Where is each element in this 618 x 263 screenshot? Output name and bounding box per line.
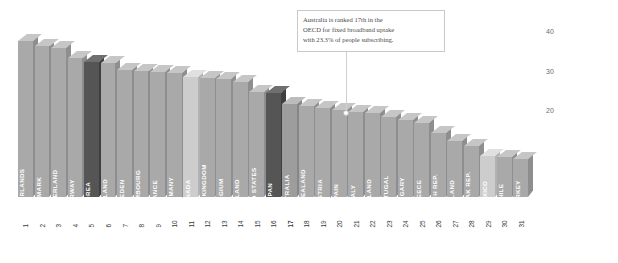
bar-face [134, 71, 149, 197]
bar-luxembourg: LUXEMBOURG [134, 71, 149, 197]
plot-area: NETHERLANDSDENMARKSWITZERLANDNORWAYKOREA… [18, 18, 564, 233]
bar-face [365, 113, 380, 197]
bar-portugal: PORTUGAL [381, 117, 396, 197]
rank-label: 7 [121, 220, 129, 227]
rank-label: 10 [170, 220, 178, 227]
bar-face [381, 117, 396, 197]
rank-label: 5 [87, 220, 95, 227]
bar-top [431, 126, 455, 133]
rank-label: 20 [335, 220, 343, 227]
bar-turkey: TURKEY [513, 159, 528, 197]
bar-finland: FINLAND [233, 82, 248, 197]
bar-slovak-rep: SLOVAK REP. [464, 146, 479, 197]
bar-korea: KOREA [84, 62, 99, 197]
bar-face [101, 63, 116, 197]
rank-label: 31 [517, 220, 525, 227]
annotation-line-1: Australia is ranked 17th in the [303, 15, 439, 25]
annotation-leader-line [346, 46, 347, 112]
bar-face [183, 77, 198, 197]
bar-italy: ITALY [348, 112, 363, 197]
bar-canada: CANADA [183, 77, 198, 197]
bar-norway: NORWAY [68, 58, 83, 197]
bar-face [84, 62, 99, 197]
bar-france: FRANCE [150, 72, 165, 197]
bar-sweden: SWEDEN [117, 70, 132, 197]
bar-face [282, 104, 297, 197]
bar-germany: GERMANY [167, 73, 182, 198]
bar-face [464, 146, 479, 197]
rank-label: 29 [484, 220, 492, 227]
rank-label: 23 [385, 220, 393, 227]
bar-spain: SPAIN [332, 110, 347, 197]
bar-new-zealand: NEW ZEALAND [299, 106, 314, 197]
bar-face [117, 70, 132, 197]
annotation-leader-dot [343, 110, 349, 116]
bar-face [414, 123, 429, 197]
rank-label: 12 [203, 220, 211, 227]
rank-label: 21 [352, 220, 360, 227]
rank-label: 9 [154, 220, 162, 227]
y-tick-label: 30 [546, 67, 554, 74]
bar-side [528, 152, 533, 197]
bar-face [35, 46, 50, 197]
bar-poland: POLAND [447, 141, 462, 197]
bar-netherlands: NETHERLANDS [18, 41, 33, 197]
rank-label: 19 [319, 220, 327, 227]
bar-face [150, 72, 165, 197]
rank-label: 28 [467, 220, 475, 227]
rank-label: 18 [302, 220, 310, 227]
bar-face [513, 159, 528, 197]
bar-series: NETHERLANDSDENMARKSWITZERLANDNORWAYKOREA… [18, 18, 564, 197]
rank-label: 8 [137, 220, 145, 227]
y-tick-label: 40 [546, 27, 554, 34]
bar-iceland: ICELAND [101, 63, 116, 197]
bar-greece: GREECE [414, 123, 429, 197]
rank-label: 17 [286, 220, 294, 227]
bar-face [431, 133, 446, 197]
bar-denmark: DENMARK [35, 46, 50, 197]
rank-label: 27 [451, 220, 459, 227]
bar-japan: JAPAN [266, 93, 281, 197]
y-axis: 203040 [536, 18, 566, 197]
bar-belgium: BELGIUM [216, 79, 231, 197]
bar-united-kingdom: UNITED KINGDOM [200, 78, 215, 197]
bar-face [216, 79, 231, 197]
bar-face [497, 157, 512, 197]
bar-face [299, 106, 314, 197]
bar-top [464, 139, 488, 146]
rank-label: 2 [38, 220, 46, 227]
bar-face [167, 73, 182, 198]
rank-label: 4 [71, 220, 79, 227]
bar-face [315, 108, 330, 198]
rank-axis: 1234567891011121314151617181920212223242… [18, 199, 564, 227]
bar-united-states: UNITED STATES [249, 92, 264, 197]
bar-top [18, 34, 42, 41]
bar-chile: CHILE [497, 157, 512, 197]
annotation-line-3: with 23.3% of people subscribing. [303, 35, 439, 45]
bar-face [447, 141, 462, 197]
rank-label: 13 [220, 220, 228, 227]
broadband-uptake-chart: NETHERLANDSDENMARKSWITZERLANDNORWAYKOREA… [0, 0, 618, 263]
bar-face [18, 41, 33, 197]
bar-australia: AUSTRALIA [282, 104, 297, 197]
bar-face [68, 58, 83, 197]
annotation-line-2: OECD for fixed broadband uptake [303, 25, 439, 35]
bar-ireland: IRELAND [365, 113, 380, 197]
rank-label: 6 [104, 220, 112, 227]
bar-face [348, 112, 363, 197]
rank-label: 3 [54, 220, 62, 227]
bar-face [249, 92, 264, 197]
bar-face [480, 156, 495, 197]
rank-label: 15 [253, 220, 261, 227]
rank-label: 22 [368, 220, 376, 227]
rank-label: 24 [401, 220, 409, 227]
bar-face [200, 78, 215, 197]
rank-label: 30 [500, 220, 508, 227]
rank-label: 1 [21, 220, 29, 227]
bar-switzerland: SWITZERLAND [51, 48, 66, 197]
annotation-box: Australia is ranked 17th in the OECD for… [297, 10, 445, 52]
bar-face [398, 120, 413, 197]
bar-top [68, 51, 92, 58]
bar-austria: AUSTRIA [315, 108, 330, 198]
bar-face [332, 110, 347, 197]
